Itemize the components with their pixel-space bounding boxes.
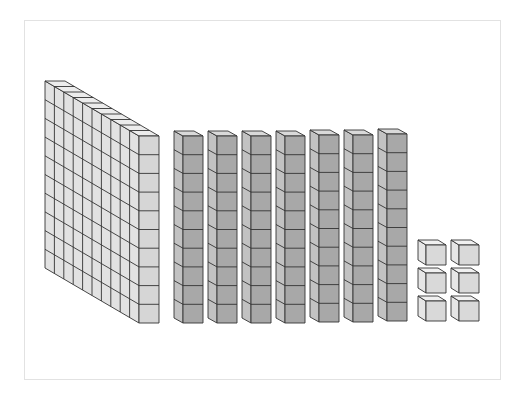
ten-rods-group xyxy=(174,129,407,323)
unit-front-face xyxy=(426,301,446,321)
ten-rod xyxy=(378,129,407,321)
unit-front-face xyxy=(459,273,479,293)
unit-cubes-group xyxy=(418,240,479,321)
ten-rod xyxy=(208,131,237,323)
unit-cube xyxy=(418,268,446,293)
unit-cube xyxy=(418,240,446,265)
unit-front-face xyxy=(426,273,446,293)
unit-cube xyxy=(451,268,479,293)
ten-rod xyxy=(344,130,373,322)
unit-cube xyxy=(451,240,479,265)
ten-rod xyxy=(242,131,271,323)
hundred-flat xyxy=(45,81,159,323)
unit-front-face xyxy=(426,245,446,265)
base-ten-blocks-canvas xyxy=(0,0,521,401)
ten-rod xyxy=(276,131,305,323)
ten-rod xyxy=(310,130,339,322)
ten-rod xyxy=(174,131,203,323)
unit-front-face xyxy=(459,301,479,321)
hundred-flats-group xyxy=(45,81,159,323)
unit-cube xyxy=(451,296,479,321)
unit-front-face xyxy=(459,245,479,265)
unit-cube xyxy=(418,296,446,321)
